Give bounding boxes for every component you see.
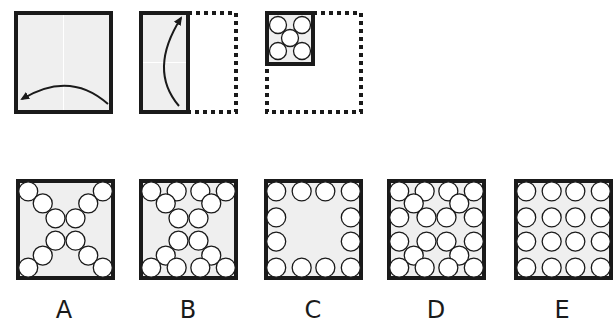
punched-hole xyxy=(270,43,287,60)
hole xyxy=(191,258,210,277)
hole xyxy=(390,232,409,251)
puzzle-canvas xyxy=(0,0,615,330)
step-2-panel xyxy=(141,13,236,112)
hole xyxy=(439,258,458,277)
option-label-b[interactable]: B xyxy=(168,296,208,324)
option-d[interactable] xyxy=(389,181,484,278)
hole xyxy=(390,208,409,227)
hole xyxy=(292,258,311,277)
hole xyxy=(542,182,561,201)
punched-hole xyxy=(270,17,287,34)
hole xyxy=(267,208,286,227)
hole xyxy=(464,258,483,277)
hole xyxy=(169,231,188,250)
hole xyxy=(46,209,65,228)
option-label-a[interactable]: A xyxy=(44,296,84,324)
hole xyxy=(66,231,85,250)
hole xyxy=(267,258,286,277)
hole xyxy=(341,258,360,277)
hole xyxy=(33,194,52,213)
hole xyxy=(437,208,456,227)
hole xyxy=(316,258,335,277)
hole xyxy=(591,258,610,277)
hole xyxy=(464,208,483,227)
hole xyxy=(169,209,188,228)
hole xyxy=(167,258,186,277)
hole xyxy=(566,258,585,277)
punched-hole xyxy=(294,43,311,60)
hole xyxy=(517,232,536,251)
answer-options xyxy=(18,181,611,278)
hole xyxy=(341,232,360,251)
hole xyxy=(93,258,112,277)
hole xyxy=(216,258,235,277)
hole xyxy=(292,182,311,201)
hole xyxy=(390,258,409,277)
step-3-panel xyxy=(267,13,361,112)
punched-hole xyxy=(282,30,299,47)
hole xyxy=(415,258,434,277)
option-e[interactable] xyxy=(516,181,611,278)
punched-hole xyxy=(294,17,311,34)
hole xyxy=(517,182,536,201)
unfolded-outline xyxy=(188,13,236,112)
hole xyxy=(267,232,286,251)
hole xyxy=(79,194,98,213)
hole xyxy=(156,194,175,213)
step-1-panel xyxy=(16,13,111,112)
hole xyxy=(316,182,335,201)
option-c[interactable] xyxy=(266,181,361,278)
option-a[interactable] xyxy=(18,181,113,278)
hole xyxy=(202,194,221,213)
hole xyxy=(566,208,585,227)
option-label-c[interactable]: C xyxy=(293,296,333,324)
hole xyxy=(591,182,610,201)
hole xyxy=(464,232,483,251)
hole xyxy=(517,208,536,227)
hole xyxy=(341,208,360,227)
option-b[interactable] xyxy=(141,181,236,278)
hole xyxy=(46,231,65,250)
hole xyxy=(517,258,536,277)
hole xyxy=(142,258,161,277)
hole xyxy=(566,182,585,201)
hole xyxy=(591,232,610,251)
hole xyxy=(417,208,436,227)
hole xyxy=(341,182,360,201)
hole xyxy=(189,231,208,250)
option-label-e[interactable]: E xyxy=(542,296,582,324)
hole xyxy=(189,209,208,228)
hole xyxy=(542,258,561,277)
hole xyxy=(66,209,85,228)
hole xyxy=(267,182,286,201)
hole xyxy=(542,232,561,251)
hole xyxy=(542,208,561,227)
hole xyxy=(566,232,585,251)
option-label-d[interactable]: D xyxy=(416,296,456,324)
hole xyxy=(591,208,610,227)
hole xyxy=(19,258,38,277)
